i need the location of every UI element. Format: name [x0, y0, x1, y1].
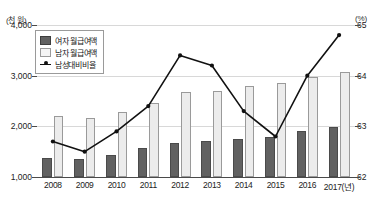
line-data-point: [337, 33, 341, 37]
y-axis-tick-label: 1,000: [2, 172, 32, 182]
y-axis-tick-label: 3,000: [2, 71, 32, 81]
light-square-icon: [40, 48, 51, 57]
y2-axis-tick-mark: [355, 126, 360, 127]
line-data-point: [114, 129, 118, 133]
legend-item: 남성대비비율: [40, 58, 97, 70]
chart-legend: 여자 월급여액남자 월급여액남성대비비율: [35, 30, 104, 74]
chart-container: (천 원) (%) 4,0003,0002,0001,000 65646362 …: [0, 0, 385, 210]
line-data-point: [242, 109, 246, 113]
y2-axis-tick-mark: [355, 177, 360, 178]
y2-axis-tick-label: 65: [357, 20, 383, 30]
y2-axis-tick-label: 64: [357, 71, 383, 81]
legend-item: 남자 월급여액: [40, 46, 97, 58]
y2-axis-tick-mark: [355, 76, 360, 77]
line-data-point: [178, 53, 182, 57]
line-data-point: [210, 63, 214, 67]
y2-axis-tick-label: 63: [357, 121, 383, 131]
line-data-point: [305, 74, 309, 78]
legend-item-label: 여자 월급여액: [55, 35, 97, 46]
legend-item-label: 남성대비비율: [55, 59, 95, 70]
line-marker-icon: [40, 60, 51, 69]
x-axis-tick-label: 2017(년): [317, 180, 361, 192]
line-data-point: [83, 150, 87, 154]
dark-square-icon: [40, 36, 51, 45]
line-data-point: [146, 104, 150, 108]
legend-item: 여자 월급여액: [40, 34, 97, 46]
line-data-point: [273, 134, 277, 138]
x-axis-baseline: [37, 177, 355, 178]
y-axis-tick-label: 2,000: [2, 121, 32, 131]
legend-item-label: 남자 월급여액: [55, 47, 97, 58]
line-data-point: [51, 139, 55, 143]
y-axis-tick-label: 4,000: [2, 20, 32, 30]
y2-axis-tick-mark: [355, 25, 360, 26]
